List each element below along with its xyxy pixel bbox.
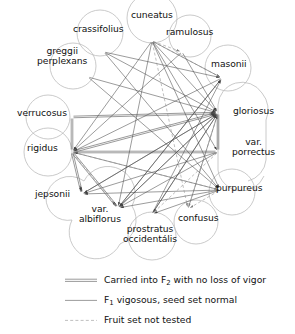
legend-generation-subscript: 1 — [109, 299, 113, 307]
legend-text-tail: vigosous, seed set normal — [114, 294, 237, 305]
node-label-crassifolius[interactable]: crassifolius — [73, 24, 124, 34]
node-label-masonii[interactable]: masonii — [211, 59, 247, 69]
edge-verrucosus-to-rigidus[interactable] — [71, 119, 73, 150]
edge-masonii-to-rigidus[interactable] — [74, 79, 220, 151]
node-label-greggii_perplexans[interactable]: greggii perplexans — [37, 46, 87, 66]
node-label-prostratus_occidentalis[interactable]: prostratus occidentális — [123, 224, 177, 244]
node-label-ramulosus[interactable]: ramulosus — [166, 27, 213, 37]
node-label-gloriosus[interactable]: gloriosus — [233, 106, 274, 116]
edge-cuneatus-to-confusus[interactable] — [152, 42, 187, 206]
legend-text-untested: Fruit set not tested — [104, 314, 191, 326]
node-label-verrucosus[interactable]: verrucosus — [17, 108, 67, 118]
edge-var_albiflorus-to-masonii[interactable] — [119, 80, 221, 207]
legend-text-vigor: Carried into F2 with no loss of vigor — [104, 274, 266, 287]
edge-jepsonii-to-gloriosus[interactable] — [83, 114, 216, 193]
legend-swatch-vigor — [64, 275, 98, 287]
edge-lines — [71, 42, 221, 214]
edge-var_porrectus-to-jepsonii[interactable] — [84, 152, 216, 193]
edge-crassifolius-to-gloriosus[interactable] — [105, 53, 215, 112]
legend-item-vigor[interactable]: Carried into F2 with no loss of vigor — [0, 274, 295, 292]
node-label-purpureus[interactable]: purpureus — [216, 183, 262, 193]
edge-ramulosus-to-rigidus[interactable] — [74, 53, 181, 150]
edge-prostratus_occidentalis-to-masonii[interactable] — [153, 80, 221, 212]
legend-item-untested[interactable]: Fruit set not tested — [0, 314, 295, 332]
legend: Carried into F2 with no loss of vigorF1 … — [0, 268, 295, 334]
edge-rigidus-to-gloriosus[interactable] — [73, 113, 216, 153]
node-label-cuneatus[interactable]: cuneatus — [131, 10, 173, 20]
legend-item-normal[interactable]: F1 vigosous, seed set normal — [0, 294, 295, 312]
legend-text-main: Fruit set not tested — [104, 314, 191, 325]
legend-generation-subscript: 2 — [166, 279, 170, 287]
legend-swatch-normal — [64, 295, 98, 307]
edge-var_porrectus-to-var_albiflorus[interactable] — [120, 153, 217, 207]
edge-cuneatus-to-masonii[interactable] — [153, 42, 219, 77]
node-label-var_albiflorus[interactable]: var. albiflorus — [79, 204, 121, 224]
node-label-rigidus[interactable]: rigidus — [27, 143, 58, 153]
legend-text-normal: F1 vigosous, seed set normal — [104, 294, 237, 307]
node-label-var_porrectus[interactable]: var. porrectus — [232, 137, 275, 157]
node-outlines — [24, 0, 268, 260]
legend-text-main: Carried into F — [104, 274, 166, 285]
edge-rigidus-to-var_porrectus[interactable] — [74, 151, 216, 153]
node-label-jepsonii[interactable]: jepsonii — [35, 189, 70, 199]
edge-rigidus-to-purpureus[interactable] — [73, 152, 217, 189]
node-label-confusus[interactable]: confusus — [178, 213, 219, 223]
edge-prostratus_occidentalis-to-gloriosus[interactable] — [153, 115, 217, 213]
legend-text-tail: with no loss of vigor — [171, 274, 266, 285]
edge-greggii_perplexans-to-gloriosus[interactable] — [89, 77, 215, 112]
diagram-canvas: cuneatuscrassifoliusramulosusgreggii per… — [0, 0, 295, 334]
legend-swatch-untested — [64, 315, 98, 327]
